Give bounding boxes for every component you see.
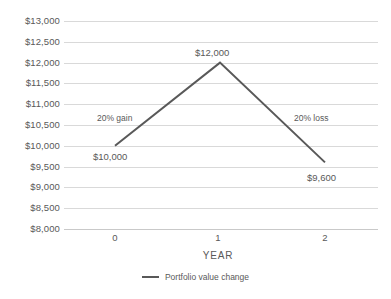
y-axis-tick-label: $11,000 [0,99,60,109]
x-axis-title: YEAR [158,250,278,262]
gridline [64,125,378,126]
point-label-year-1: $12,000 [195,47,229,58]
point-label-year-2: $9,600 [307,172,336,183]
point-label-year-0: $10,000 [93,151,127,162]
y-axis-tick-label: $9,000 [0,182,60,192]
gridline [64,42,378,43]
gridline [64,208,378,209]
y-axis-tick-label: $12,000 [0,58,60,68]
gridline [64,83,378,84]
y-axis-tick-label: $8,500 [0,203,60,213]
legend-item-label: Portfolio value change [165,272,249,282]
gridline [64,187,378,188]
x-axis-tick-label-2: 2 [305,232,345,243]
y-axis-tick-label: $11,500 [0,78,60,88]
y-axis-tick-label: $12,500 [0,37,60,47]
x-axis-tick-label-0: 0 [95,232,135,243]
gridline [64,146,378,147]
y-axis-tick-label: $10,500 [0,120,60,130]
x-axis-line [64,229,378,230]
chart-container: $13,000 $12,500 $12,000 $11,500 $11,000 … [0,0,391,299]
gridline [64,104,378,105]
annotation-loss: 20% loss [294,113,329,123]
chart-legend: Portfolio value change [0,272,391,282]
annotation-gain: 20% gain [97,113,132,123]
y-axis-tick-label: $13,000 [0,16,60,26]
y-axis-tick-label: $10,000 [0,141,60,151]
gridline [64,63,378,64]
y-axis-tick-label: $8,000 [0,224,60,234]
gridline [64,167,378,168]
legend-line-marker-icon [142,276,159,278]
x-axis-tick-label-1: 1 [198,232,238,243]
y-axis-tick-label: $9,500 [0,162,60,172]
gridline [64,21,378,22]
